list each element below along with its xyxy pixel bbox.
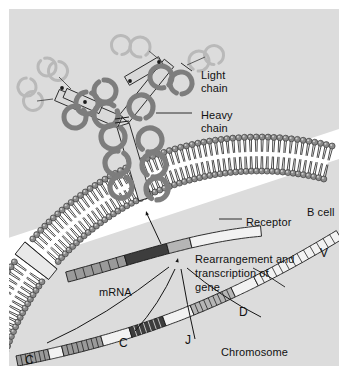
disulfide-bond-2	[83, 100, 87, 104]
figure-root: Light chain Heavy chain Receptor B cell …	[0, 0, 348, 375]
mrna-segment-d	[167, 238, 192, 254]
label-receptor: Receptor	[246, 216, 291, 229]
ig-domain-loop	[202, 43, 225, 66]
lipid-head	[294, 136, 300, 142]
mrna-segment-j	[124, 244, 169, 266]
lipid-head	[306, 138, 312, 144]
mrna-segment-v	[190, 226, 262, 248]
light-chain-connector-3	[37, 99, 53, 101]
diagram-svg	[9, 9, 339, 366]
disulfide-bond-1	[128, 79, 132, 83]
lipid-head	[236, 135, 242, 141]
label-segment-v: V	[320, 247, 328, 260]
label-segment-j: J	[185, 334, 191, 347]
disulfide-bond-0	[157, 60, 161, 64]
light-chain-domain-6	[35, 55, 59, 79]
ig-domain-loop	[47, 60, 69, 82]
mrna-segment-c	[66, 255, 128, 282]
lipid-head	[323, 142, 329, 148]
lipid-head	[218, 136, 224, 142]
lipid-head	[189, 142, 195, 148]
label-chromosome: Chromosome	[221, 346, 288, 359]
lipid-head	[265, 134, 271, 140]
heavy-chain-arm-domain-1	[168, 70, 193, 95]
lipid-head	[242, 134, 248, 140]
lipid-head	[247, 134, 253, 140]
lipid-head	[253, 134, 259, 140]
lipid-head	[166, 148, 172, 154]
label-segment-c-proximal: C	[119, 337, 128, 350]
label-mrna: mRNA	[99, 286, 132, 299]
lipid-head	[207, 138, 213, 144]
light-chain-domain-4	[110, 34, 132, 56]
diagram-panel: Light chain Heavy chain Receptor B cell …	[9, 9, 339, 366]
lipid-head	[172, 146, 178, 152]
lipid-head	[39, 279, 45, 285]
label-b-cell: B cell	[307, 206, 335, 219]
ig-domain-loop	[35, 55, 59, 79]
lipid-head	[329, 143, 335, 149]
ig-domain-loop	[110, 34, 132, 56]
lipid-head	[183, 143, 189, 149]
lipid-head	[289, 136, 295, 142]
lipid-head	[300, 137, 306, 143]
label-segment-c-distal: C	[25, 354, 34, 366]
lipid-head	[318, 140, 324, 146]
label-rearrangement-transcription: Rearrangement and transcription of gene	[195, 252, 295, 294]
light-chain-domain-5	[202, 43, 225, 66]
lipid-head	[271, 134, 277, 140]
arrow-chromosome-to-mrna-head	[175, 258, 178, 263]
lipid-head	[277, 135, 283, 141]
lipid-head	[321, 176, 327, 182]
lipid-head	[224, 136, 230, 142]
light-chain-domain-2	[47, 60, 69, 82]
chromosome-spacer	[48, 346, 64, 359]
lipid-head	[212, 137, 218, 143]
label-heavy-chain: Heavy chain	[201, 109, 233, 134]
ig-domain-loop	[168, 70, 193, 95]
chromosome-segment-j	[129, 316, 166, 337]
lipid-head	[230, 135, 236, 141]
lipid-head	[312, 139, 318, 145]
lipid-head	[11, 259, 17, 265]
lipid-head	[178, 144, 184, 150]
lipid-head	[259, 134, 265, 140]
lipid-head	[283, 135, 289, 141]
label-light-chain: Light chain	[201, 69, 228, 94]
disulfide-bond-3	[60, 86, 64, 90]
label-segment-d: D	[239, 306, 248, 319]
lipid-head	[201, 139, 207, 145]
lipid-head	[195, 140, 201, 146]
